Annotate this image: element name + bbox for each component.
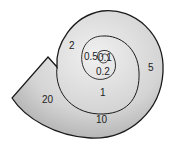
label-5: 5: [148, 63, 154, 73]
label-20: 20: [42, 95, 53, 105]
label-0-2: 0.2: [96, 67, 110, 77]
spiral-diagram: 0.1 0.2 0.5 1 2 5 10 20: [0, 0, 175, 147]
label-1: 1: [100, 88, 106, 98]
label-10: 10: [96, 115, 107, 125]
label-0-1: 0.1: [98, 53, 112, 63]
label-0-5: 0.5: [84, 52, 98, 62]
label-2: 2: [69, 41, 75, 51]
spiral-shape: [0, 0, 175, 147]
